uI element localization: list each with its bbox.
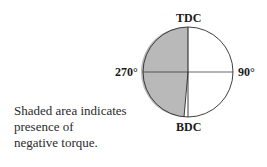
caption-line-2: presence of <box>14 119 127 135</box>
270-degree-label: 270° <box>115 66 138 78</box>
bdc-label: BDC <box>176 121 201 133</box>
tdc-label: TDC <box>176 12 201 24</box>
caption: Shaded area indicates presence of negati… <box>14 103 127 151</box>
90-degree-label: 90° <box>238 66 255 78</box>
caption-line-1: Shaded area indicates <box>14 103 127 119</box>
caption-line-3: negative torque. <box>14 135 127 151</box>
